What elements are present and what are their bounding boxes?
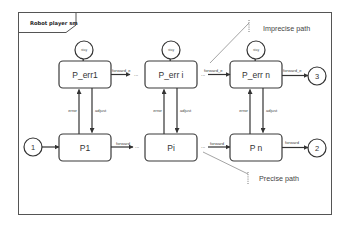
- state-label-p1: P1: [80, 143, 91, 153]
- edge-label-adjust-col1: adjust: [95, 108, 107, 113]
- state-label-p-err1: P_err1: [72, 70, 98, 80]
- edge-label-error-coln: error: [239, 108, 248, 113]
- state-label-p-errn: P_err n: [242, 70, 270, 80]
- state-label-pn: P n: [250, 143, 263, 153]
- ellipsis-top-left: ...: [134, 71, 138, 77]
- imprecise-path-label: Imprecise path: [263, 24, 310, 33]
- edge-label-adjust-coln: adjust: [266, 108, 278, 113]
- state-label-pi: Pi: [167, 143, 175, 153]
- terminal-2-label: 2: [315, 144, 319, 153]
- terminal-3-label: 3: [315, 72, 319, 81]
- ellipsis-bottom-right: ...: [201, 143, 205, 149]
- edge-label-errn-forward: forward_e: [283, 68, 302, 73]
- imprecise-path-pointer: [210, 23, 249, 63]
- edge-label-pi-forward: forward: [210, 141, 225, 146]
- diagram-title: Robot player sm: [30, 20, 78, 27]
- self-loop-label-p-erri: stay: [168, 48, 175, 52]
- ellipsis-bottom-left: ...: [135, 143, 139, 149]
- edge-label-p1-forward: forward: [116, 141, 131, 146]
- self-loop-label-p-err1: stay: [81, 48, 88, 52]
- edge-label-error-coli: error: [153, 108, 162, 113]
- edge-label-error-col1: error: [68, 108, 77, 113]
- edge-label-erri-forward: forward_e: [204, 68, 223, 73]
- state-machine-diagram: Robot player sm stay P_err1 stay P_err i…: [0, 0, 349, 228]
- edge-label-err1-forward: forward_e: [112, 68, 131, 73]
- edge-label-adjust-coli: adjust: [180, 108, 192, 113]
- state-label-p-erri: P_err i: [158, 70, 183, 80]
- self-loop-label-p-errn: stay: [253, 48, 260, 52]
- diagram-frame: [19, 13, 332, 215]
- terminal-1-label: 1: [31, 143, 35, 152]
- edge-label-pn-forward: forward: [285, 140, 300, 145]
- precise-path-label: Precise path: [259, 174, 299, 183]
